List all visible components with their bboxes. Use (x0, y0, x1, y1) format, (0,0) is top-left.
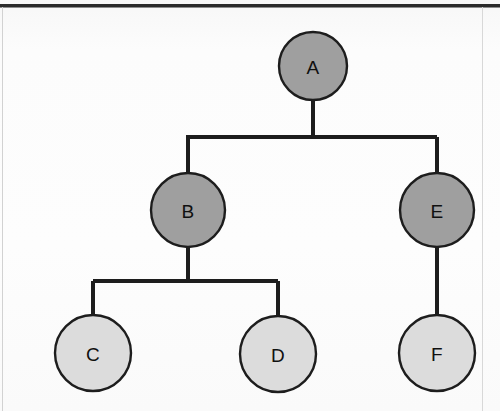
nodes-group: ABECDF (55, 32, 475, 392)
tree-node-d[interactable]: D (240, 316, 316, 392)
tree-node-b[interactable]: B (151, 173, 225, 247)
edges-group (93, 100, 437, 317)
node-label-d: D (271, 345, 285, 366)
node-label-c: C (86, 344, 100, 365)
tree-node-a[interactable]: A (279, 32, 347, 100)
tree-diagram: ABECDF (0, 0, 500, 411)
tree-node-c[interactable]: C (55, 315, 131, 391)
node-label-a: A (307, 57, 320, 78)
node-label-b: B (182, 201, 195, 222)
tree-node-e[interactable]: E (400, 173, 474, 247)
diagram-page: ABECDF (0, 0, 500, 411)
node-label-f: F (431, 344, 443, 365)
node-label-e: E (431, 201, 444, 222)
tree-node-f[interactable]: F (399, 315, 475, 391)
